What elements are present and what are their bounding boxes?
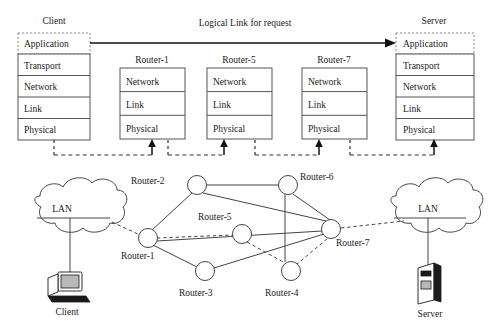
edge-r6-r7 [293,194,330,220]
layer-label-physical: Physical [24,125,57,135]
phy-arrowhead-router1-left [148,139,156,147]
phy-arrowhead-router5-left [220,139,228,147]
endpoint-label-client: Client [55,307,79,317]
router-label-r6: Router-6 [300,172,334,182]
diagram-canvas: Client Application Transport Network Lin… [0,0,491,321]
layer-label-application: Application [24,39,69,49]
edge-r1-r3 [153,245,197,267]
layer-label-application: Application [403,39,448,49]
cloud-label-server-lan: LAN [418,204,438,214]
physical-layer-links [54,139,438,155]
protocol-stack-router5: Router-5 Network Link Physical [207,55,272,139]
layer-label-physical: Physical [126,124,159,134]
protocol-stack-router7: Router-7 Network Link Physical [302,55,367,139]
stack-title-client: Client [42,16,66,26]
computer-tower [48,274,58,296]
router-label-r5: Router-5 [198,212,232,222]
edge-r1-r2 [152,193,192,230]
layer-label-physical: Physical [403,125,436,135]
layer-label-network: Network [24,82,57,92]
network-layer-diagram: Client Application Transport Network Lin… [0,0,491,321]
stack-title-router1: Router-1 [135,55,169,65]
server-panel [421,281,431,289]
router-node-r3 [196,262,215,281]
logical-link-arrowhead [385,39,396,48]
router-node-r5 [233,225,252,244]
router-label-r1: Router-1 [121,251,155,261]
router-label-r4: Router-4 [265,288,299,298]
edge-client-lan-r1 [112,222,140,235]
cloud-shape-client [35,178,127,233]
router-label-r3: Router-3 [179,288,213,298]
stack-title-server: Server [422,16,448,26]
router-label-r2: Router-2 [131,176,165,186]
layer-label-physical: Physical [213,124,246,134]
edge-r4-r7 [296,238,328,265]
protocol-stack-client: Client Application Transport Network Lin… [18,16,90,140]
layer-label-network: Network [308,77,341,87]
edge-r7-server-lan [341,221,404,228]
topology-nodes: Router-1 Router-2 Router-3 Router-4 Rout… [121,172,370,298]
server-chassis-side [434,263,441,302]
server-tower-icon: Server [418,263,444,319]
protocol-stack-router1: Router-1 Network Link Physical [120,55,185,139]
stack-title-router5: Router-5 [222,55,256,65]
layer-label-network: Network [213,77,246,87]
layer-label-network: Network [403,82,436,92]
layer-label-transport: Transport [403,61,440,71]
topology-edges [112,185,404,268]
router-node-r4 [282,262,301,281]
endpoint-label-server: Server [418,309,444,319]
router-node-r7 [322,220,341,239]
stack-title-router7: Router-7 [317,55,351,65]
router-node-r2 [188,176,207,195]
layer-label-link: Link [24,104,42,114]
edge-r5-r4 [247,242,285,263]
server-drive-bay [421,271,431,276]
layer-label-network: Network [126,77,159,87]
router-label-r7: Router-7 [336,238,370,248]
layer-label-link: Link [403,104,421,114]
phy-arrowhead-router7-left [315,139,323,147]
logical-link-arrow: Logical Link for request [90,18,396,47]
monitor-screen [61,275,79,288]
layer-label-link: Link [126,100,144,110]
layer-label-transport: Transport [24,61,61,71]
layer-label-physical: Physical [308,124,341,134]
logical-link-caption: Logical Link for request [199,18,292,28]
layer-label-link: Link [213,100,231,110]
cloud-server-lan: LAN [391,178,483,266]
router-node-r6 [279,176,298,195]
cloud-label-client-lan: LAN [52,204,72,214]
desktop-computer-icon: Client [48,272,90,317]
protocol-stack-server: Server Application Transport Network Lin… [396,16,474,140]
layer-label-link: Link [308,100,326,110]
edge-r3-r7 [214,234,324,268]
cloud-client-lan: LAN [35,178,127,272]
keyboard-base [48,296,90,302]
router-node-r1 [139,229,158,248]
